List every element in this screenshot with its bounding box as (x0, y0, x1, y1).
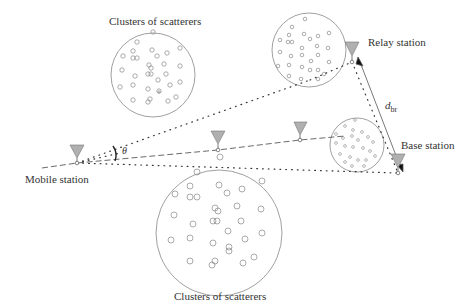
label-theta: θ (122, 145, 127, 156)
label-relay-station: Relay station (368, 36, 426, 48)
cluster-bottom (156, 154, 282, 296)
cluster-top-left (111, 30, 195, 117)
diagram: Clusters of scatterers Relay station Bas… (0, 0, 471, 307)
cluster-base (330, 118, 384, 172)
label-cluster-top: Clusters of scatterers (109, 15, 201, 27)
label-distance-sub: br (391, 105, 398, 114)
label-cluster-bottom: Clusters of scatterers (174, 290, 266, 302)
cluster-top-right (272, 13, 346, 87)
label-mobile-station: Mobile station (25, 173, 89, 185)
antenna-middle (211, 131, 225, 152)
antenna-mobile (70, 145, 84, 165)
dotted-paths (77, 62, 398, 173)
theta-arc (113, 146, 116, 161)
label-base-station: Base station (401, 139, 454, 151)
antenna-right (294, 122, 307, 142)
label-distance: dbr (385, 99, 397, 114)
